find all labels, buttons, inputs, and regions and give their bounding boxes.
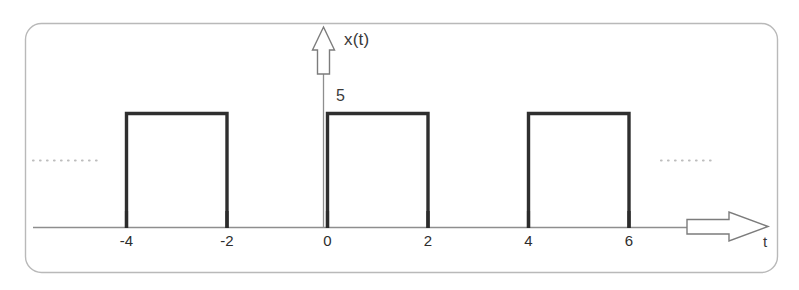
time-axis-label: t bbox=[763, 233, 767, 250]
right-arrow-icon bbox=[687, 212, 768, 241]
pulse-rect-1 bbox=[127, 114, 228, 229]
pulse-rect-2 bbox=[328, 114, 429, 229]
tick-label-minus2: -2 bbox=[210, 232, 244, 249]
tick-label-zero: 0 bbox=[311, 232, 345, 249]
tick-label-6: 6 bbox=[612, 232, 646, 249]
tick-label-minus4: -4 bbox=[110, 232, 144, 249]
pulse-rect-3 bbox=[529, 114, 630, 229]
tick-label-2: 2 bbox=[411, 232, 445, 249]
up-arrow-icon bbox=[313, 27, 335, 74]
tick-label-4: 4 bbox=[512, 232, 546, 249]
amplitude-value-label: 5 bbox=[336, 87, 345, 105]
signal-plot-figure: x(t) 5 t -4 -2 0 2 4 6 bbox=[0, 0, 799, 290]
signal-name-label: x(t) bbox=[344, 30, 369, 50]
